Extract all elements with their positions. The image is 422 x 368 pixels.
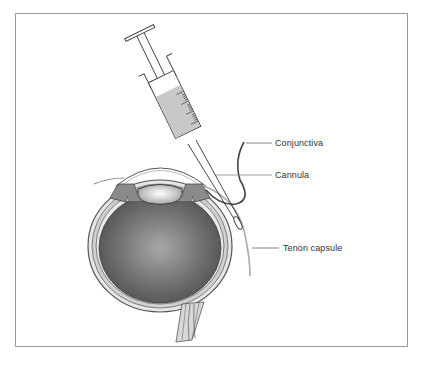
label-cannula: Cannula (275, 170, 309, 180)
conjunctiva-line (206, 142, 245, 204)
eye-injection-diagram (0, 0, 422, 368)
lens (138, 185, 183, 205)
syringe (121, 23, 206, 141)
label-tenon-capsule: Tenon capsule (283, 243, 342, 253)
label-conjunctiva: Conjunctiva (275, 138, 323, 148)
